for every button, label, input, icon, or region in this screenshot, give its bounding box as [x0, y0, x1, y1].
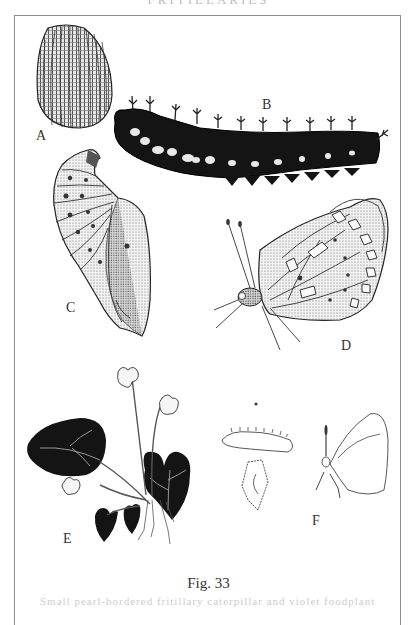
label-egg: A	[36, 128, 46, 144]
label-butterfly: D	[341, 338, 351, 354]
label-actual-size: F	[312, 513, 320, 529]
page-footer-text: Small pearl-bordered fritillary caterpil…	[40, 595, 375, 607]
actual-size-outlines	[222, 403, 388, 511]
butterfly-illustration	[214, 199, 388, 350]
label-caterpillar: B	[262, 97, 271, 113]
caterpillar-illustration	[114, 96, 388, 186]
label-violet-plant: E	[63, 531, 72, 547]
label-chrysalis: C	[66, 300, 75, 316]
violet-plant-illustration	[27, 367, 190, 544]
figure-caption: Fig. 33	[0, 575, 417, 592]
egg-illustration	[37, 25, 112, 128]
